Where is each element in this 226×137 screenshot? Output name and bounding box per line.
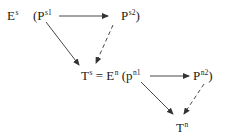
arrow-ps1-to-ts	[46, 22, 79, 65]
label-base: E	[7, 8, 15, 23]
close-paren: )	[135, 8, 139, 23]
space-label-es: Es	[7, 9, 18, 24]
label-superscript: n	[115, 68, 119, 77]
label-superscript: s	[15, 8, 18, 17]
equals-sign: =	[96, 68, 103, 83]
label-base: P	[37, 8, 44, 23]
label-base: P	[121, 8, 128, 23]
node-pn2: Pn2)	[193, 69, 213, 84]
label-base: P	[193, 68, 200, 83]
label-superscript: n	[184, 120, 188, 129]
node-tn: Tn	[176, 121, 188, 136]
arrow-pn1-to-tn	[141, 82, 173, 114]
close-paren: )	[208, 68, 212, 83]
label-superscript: n1	[133, 68, 141, 77]
label-superscript: s1	[45, 8, 52, 17]
dashed-arrow-pn2-to-tn	[184, 84, 204, 114]
label-superscript: s2	[129, 8, 136, 17]
label-base: T	[176, 120, 184, 135]
label-base: p	[126, 68, 133, 83]
dashed-arrow-ps2-to-ts	[96, 25, 113, 63]
node-ps2: Ps2)	[121, 9, 140, 24]
node-ts-equation: Ts = En (pn1	[81, 69, 141, 84]
node-ps1: (Ps1	[33, 9, 52, 24]
label-base: E	[106, 68, 114, 83]
label-superscript: n2	[201, 68, 209, 77]
label-superscript: s	[89, 68, 92, 77]
label-base: T	[81, 68, 89, 83]
